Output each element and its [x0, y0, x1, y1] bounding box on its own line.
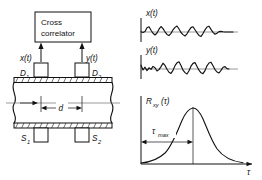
signal-plots-group: x(t) y(t) R xy (τ) τ — [141, 9, 252, 177]
arrowhead-y-into-correlator — [79, 43, 84, 50]
plot-rxy-title-argument: (τ) — [161, 97, 170, 106]
detector-1-box — [34, 63, 48, 77]
cross-correlator-label-line1: Cross — [41, 18, 62, 27]
tau-max-arrowhead-right — [188, 140, 194, 144]
plot-x-signal: x(t) — [141, 9, 238, 42]
plot-cross-correlation: R xy (τ) τ τ max — [141, 96, 252, 177]
signal-y-label: y(t) — [85, 54, 98, 63]
tau-max-arrowhead-left — [141, 140, 147, 144]
plot-rxy-x-axis-arrowhead — [247, 162, 253, 166]
plot-x-waveform — [141, 26, 233, 36]
plot-rxy-title-subscript: xy — [152, 102, 160, 108]
dimension-arrowhead-right — [77, 106, 83, 110]
cross-correlator-label-line2: correlator — [41, 29, 75, 38]
plot-y-signal: y(t) — [141, 46, 238, 79]
source-1-subscript: 1 — [27, 139, 30, 145]
plot-y-title: y(t) — [145, 46, 158, 55]
source-1-box — [34, 128, 48, 142]
pipe-spacing-label: d — [59, 104, 64, 113]
source-2-subscript: 2 — [97, 139, 102, 145]
tau-max-label-subscript: max — [158, 132, 169, 138]
plot-rxy-x-axis-label: τ — [247, 168, 251, 177]
plot-rxy-title-base: R — [146, 97, 152, 106]
arrowhead-x-into-correlator — [38, 43, 43, 50]
plot-y-waveform — [141, 62, 229, 74]
measurement-setup-group: Cross correlator x(t) y(t) D 1 D 2 — [6, 12, 120, 145]
cross-correlation-flow-diagram: Cross correlator x(t) y(t) D 1 D 2 — [0, 0, 262, 180]
detector-2-box — [75, 63, 89, 77]
flow-direction-arrowhead — [33, 101, 39, 105]
dimension-arrowhead-left — [41, 106, 47, 110]
plot-x-title: x(t) — [145, 9, 158, 18]
source-2-box — [75, 128, 89, 142]
signal-x-label: x(t) — [19, 54, 32, 63]
